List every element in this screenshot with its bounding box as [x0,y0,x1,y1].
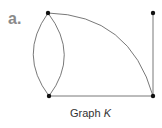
edge-tl-bl-right [48,13,64,96]
vertex-tr [151,11,155,15]
edge-tl-br-arc [48,13,153,96]
vertex-br [151,94,155,98]
vertex-bl [47,94,51,98]
caption-variable: K [104,107,111,119]
graph-caption: Graph K [70,107,111,119]
vertex-tl [46,11,50,15]
edge-tl-bl-left [33,13,49,96]
caption-prefix: Graph [70,107,104,119]
